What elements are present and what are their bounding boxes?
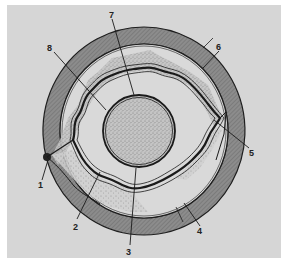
label-6: 6 (216, 42, 221, 52)
label-2: 2 (73, 222, 78, 232)
label-1: 1 (38, 180, 43, 190)
label-7: 7 (109, 10, 114, 20)
label-8: 8 (47, 43, 52, 53)
central-nucleus (103, 95, 175, 167)
label-4: 4 (197, 226, 202, 236)
cross-section-diagram: 1 2 3 4 5 6 7 8 (0, 0, 288, 268)
label-3: 3 (126, 247, 131, 257)
label-5: 5 (249, 148, 254, 158)
